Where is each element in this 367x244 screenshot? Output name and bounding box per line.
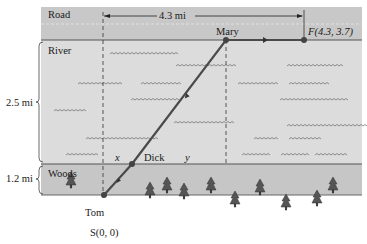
point-start [101,192,107,198]
point-dick [129,161,135,167]
segment-y-label: y [185,153,190,164]
segment-x-label: x [115,153,120,164]
distance-label: 4.3 mi [159,11,186,22]
river-band [41,40,362,164]
mary-label: Mary [216,27,239,38]
dick-label: Dick [144,153,164,164]
point-mary [223,37,229,43]
river-label: River [48,46,71,57]
woods-label: Woods [48,169,77,180]
diagram: Road River Woods 2.5 mi 1.2 mi 4.3 mi Ma… [0,0,367,244]
woods-band [41,164,362,195]
point-finish [301,37,307,43]
river-height-label: 2.5 mi [6,98,33,109]
road-label: Road [48,10,70,21]
woods-height-label: 1.2 mi [6,174,33,185]
start-label: S(0, 0) [90,228,119,239]
tom-label: Tom [85,208,104,219]
finish-label: F(4.3, 3.7) [308,27,353,38]
